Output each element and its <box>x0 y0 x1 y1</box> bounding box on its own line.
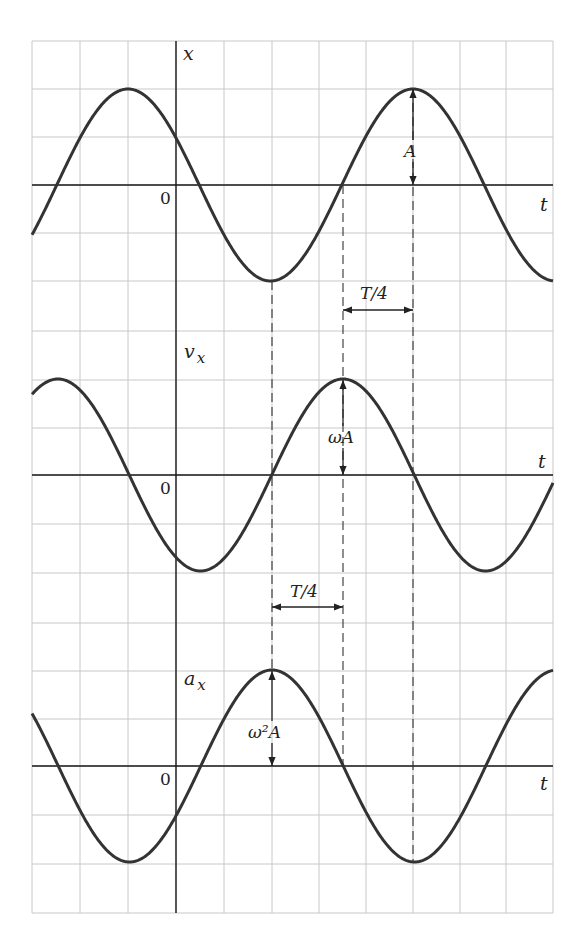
quarter-period-label-top: T/4 <box>360 283 388 303</box>
t-label-x: t <box>540 193 548 215</box>
origin-label-v: 0 <box>160 478 171 498</box>
origin-label-a: 0 <box>160 769 171 789</box>
axes <box>32 41 553 913</box>
omega-squared-a-label: ω²A <box>248 722 281 742</box>
quarter-period-label-mid: T/4 <box>290 581 318 601</box>
vx-axis-label: vx <box>184 340 206 367</box>
amplitude-label: A <box>402 141 416 161</box>
labels: x 0 t A vx 0 t ωA ax 0 t ω²A T/4 T/4 <box>160 42 548 794</box>
omega-a-label: ωA <box>328 427 354 447</box>
t-label-a: t <box>540 772 548 794</box>
x-axis-label: x <box>183 42 194 64</box>
shm-graphs-figure: x 0 t A vx 0 t ωA ax 0 t ω²A T/4 T/4 <box>0 0 580 938</box>
grid <box>32 41 553 913</box>
origin-label-x: 0 <box>160 188 171 208</box>
t-label-v: t <box>538 450 546 472</box>
